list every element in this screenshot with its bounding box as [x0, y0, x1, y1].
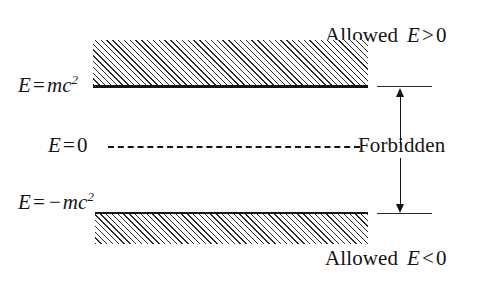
energy-symbol: E [407, 23, 420, 47]
forbidden-gap-arrow-shaft-lower [400, 158, 401, 205]
exponent: 2 [72, 72, 79, 87]
allowed-negative-label: AllowedE<0 [325, 248, 447, 269]
energy-symbol: E [18, 190, 31, 214]
zero-energy-dashed-line [108, 146, 360, 148]
equals-symbol: = [31, 73, 47, 97]
allowed-positive-band [93, 40, 368, 85]
exponent: 2 [88, 189, 95, 204]
rest-energy-expression: mc [63, 190, 88, 214]
rest-energy-expression: mc [47, 73, 72, 97]
allowed-negative-condition: E<0 [407, 248, 447, 269]
zero-level-label: E=0 [48, 135, 88, 156]
allowed-positive-condition: E>0 [407, 25, 447, 46]
relation-symbol: > [420, 23, 436, 47]
minus-symbol: − [47, 190, 63, 214]
lower-level-equation: E=−mc2 [18, 192, 94, 213]
equals-symbol: = [61, 133, 77, 157]
energy-symbol: E [407, 246, 420, 270]
relation-symbol: < [420, 246, 436, 270]
equals-symbol: = [31, 190, 47, 214]
upper-gap-tick [377, 86, 432, 87]
allowed-negative-word: Allowed [325, 246, 398, 270]
zero-level-equation: E=0 [48, 135, 88, 156]
forbidden-region-label: Forbidden [358, 135, 445, 156]
upper-level-label: E=mc2 [18, 75, 78, 96]
lower-gap-tick [377, 213, 432, 214]
relation-value: 0 [436, 23, 447, 47]
upper-level-equation: E=mc2 [18, 75, 78, 96]
upper-band-boundary-line [93, 85, 368, 88]
forbidden-gap-arrowhead-down [396, 204, 404, 213]
relation-value: 0 [436, 246, 447, 270]
zero-value: 0 [77, 133, 88, 157]
energy-symbol: E [48, 133, 61, 157]
lower-level-label: E=−mc2 [18, 192, 94, 213]
energy-symbol: E [18, 73, 31, 97]
dirac-energy-spectrum-figure: AllowedE>0 E=mc2 E=0 Forbidden E=−mc2 Al… [0, 0, 487, 283]
allowed-negative-band [95, 214, 368, 244]
